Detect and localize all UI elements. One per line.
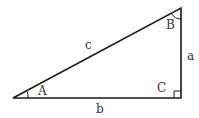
vertex-label-b: B xyxy=(166,18,175,32)
side-label-a: a xyxy=(187,49,194,63)
vertex-label-c: C xyxy=(157,81,166,95)
side-label-c: c xyxy=(85,38,92,52)
vertex-label-a: A xyxy=(37,84,47,98)
right-angle-marker-icon xyxy=(174,91,181,98)
side-label-b: b xyxy=(96,102,104,116)
right-triangle-diagram: A B C a b c xyxy=(0,0,199,118)
angle-a-arc-icon xyxy=(27,92,28,99)
